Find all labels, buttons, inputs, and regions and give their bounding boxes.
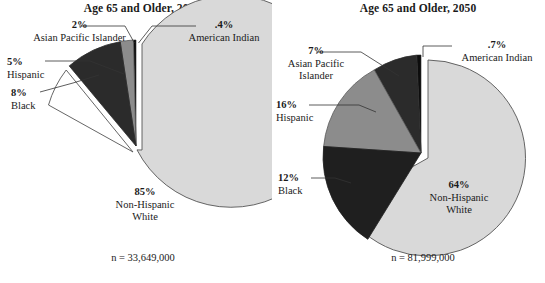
slice-label-non-hispanic-white-2050: 64% Non-Hispanic White	[414, 179, 504, 217]
callout-name: Hispanic	[7, 69, 44, 82]
callout-pct: 5%	[7, 56, 44, 69]
callout-black-2000: 8% Black	[11, 87, 36, 112]
callout-american-indian-2000: .4% American Indian	[176, 19, 272, 44]
callout-asian-pacific-islander-2000: 2% Asian Pacific Islander	[22, 19, 137, 44]
slice-label-name-line1: Non-Hispanic	[100, 199, 190, 212]
callout-name-line2: Islander	[273, 70, 359, 83]
chart-panel-2050: Age 65 and Older, 2050 7% Asian Pacific …	[273, 0, 545, 283]
callout-hispanic-2000: 5% Hispanic	[7, 56, 44, 81]
slice-label-non-hispanic-white-2000: 85% Non-Hispanic White	[100, 186, 190, 224]
callout-name: Hispanic	[276, 112, 313, 125]
callout-name: Asian Pacific Islander	[22, 32, 137, 45]
callout-hispanic-2050: 16% Hispanic	[276, 99, 313, 124]
slice-label-name-line2: White	[100, 211, 190, 224]
callout-pct: 12%	[278, 172, 303, 185]
slice-label-name-line2: White	[414, 204, 504, 217]
slice-label-name-line1: Non-Hispanic	[414, 192, 504, 205]
slice-label-pct: 85%	[100, 186, 190, 199]
callout-pct: 8%	[11, 87, 36, 100]
sample-size-caption-2050: n = 81,999,000	[273, 252, 545, 263]
callout-asian-pacific-islander-2050: 7% Asian Pacific Islander	[273, 45, 359, 83]
callout-name: American Indian	[449, 52, 545, 65]
callout-american-indian-2050: .7% American Indian	[449, 39, 545, 64]
callout-name: Black	[11, 100, 36, 113]
callout-pct: 2%	[22, 19, 137, 32]
callout-name-line1: Asian Pacific	[273, 58, 359, 71]
sample-size-caption-2000: n = 33,649,000	[0, 252, 272, 263]
slice-label-pct: 64%	[414, 179, 504, 192]
callout-pct: .4%	[176, 19, 272, 32]
callout-black-2050: 12% Black	[278, 172, 303, 197]
callout-name: American Indian	[176, 32, 272, 45]
chart-panel-2000: Age 65 and Older, 2000 2% Asian Pacific …	[0, 0, 272, 283]
callout-name: Black	[278, 185, 303, 198]
callout-pct: .7%	[449, 39, 545, 52]
callout-pct: 7%	[273, 45, 359, 58]
leader-line-american-indian	[423, 46, 452, 57]
callout-pct: 16%	[276, 99, 313, 112]
